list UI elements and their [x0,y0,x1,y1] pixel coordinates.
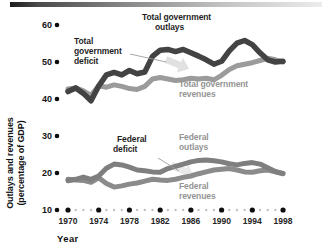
y-tick-label: 50 [34,57,52,67]
annotation-line: Federal [113,134,147,144]
annotation-line: Federal [179,132,209,142]
x-tick-dot-major [219,207,224,212]
annotation-line: government [74,46,122,56]
annotation-line: revenues [179,89,248,99]
x-tick-label: 1982 [147,216,173,226]
x-tick-dot-minor [243,209,245,211]
x-tick-dot-minor [205,209,207,211]
x-tick-dot-major [96,207,101,212]
annotation-federal-outlays: Federal outlays [179,132,209,152]
x-tick-dot-minor [136,209,138,211]
x-tick-dot-minor [151,209,153,211]
y-axis-title-line2: (percentage of GDP) [16,93,27,233]
y-axis-title: Outlays and revenues (percentage of GDP) [5,93,27,233]
annotation-line: deficit [113,144,147,154]
x-tick-dot-minor [259,209,261,211]
y-tick-label: 30 [34,131,52,141]
x-tick-dot-minor [197,209,199,211]
x-tick-label: 1978 [116,216,142,226]
x-tick-dot-minor [105,209,107,211]
annotation-line: outlays [142,22,211,32]
x-tick-dot-minor [113,209,115,211]
annotation-line: Total government [179,79,248,89]
x-tick-dot-major [250,207,255,212]
y-tick-dot [55,23,60,28]
y-tick-label: 10 [34,205,52,215]
x-tick-label: 1998 [270,216,296,226]
x-tick-dot-minor [82,209,84,211]
y-tick-dot [55,97,60,102]
x-tick-dot-major [280,207,285,212]
x-tick-dot-minor [90,209,92,211]
annotation-total-government-outlays: Total government outlays [142,12,211,32]
annotation-line: outlays [179,142,209,152]
x-tick-dot-minor [74,209,76,211]
annotation-line: Total [74,36,122,46]
x-tick-label: 1970 [55,216,81,226]
y-tick-dot [55,208,60,213]
y-tick-dot [55,171,60,176]
x-tick-dot-minor [213,209,215,211]
x-tick-dot-minor [144,209,146,211]
figure-government-budget-chart: Outlays and revenues (percentage of GDP)… [0,0,322,252]
x-tick-label: 1994 [239,216,265,226]
x-tick-dot-minor [121,209,123,211]
x-tick-dot-minor [182,209,184,211]
x-tick-dot-major [127,207,132,212]
x-tick-dot-minor [174,209,176,211]
x-tick-label: 1974 [86,216,112,226]
annotation-line: Total government [142,12,211,22]
y-tick-label: 60 [34,20,52,30]
x-tick-dot-major [65,207,70,212]
total-deficit-gap-arrow-icon [163,52,192,76]
x-tick-label: 1990 [209,216,235,226]
x-tick-dot-minor [236,209,238,211]
x-tick-dot-major [188,207,193,212]
x-tick-dot-minor [228,209,230,211]
annotation-total-government-revenues: Total government revenues [179,79,248,99]
x-tick-dot-minor [167,209,169,211]
annotation-total-government-deficit: Total government deficit [74,36,122,66]
annotation-federal-deficit: Federal deficit [113,134,147,154]
y-tick-label: 40 [34,94,52,104]
y-tick-dot [55,60,60,65]
annotation-line: Federal [179,181,216,191]
x-tick-label: 1986 [178,216,204,226]
y-tick-label: 20 [34,168,52,178]
annotation-line: deficit [74,56,122,66]
x-tick-dot-minor [274,209,276,211]
x-tick-dot-minor [266,209,268,211]
annotation-line: revenues [179,191,216,201]
y-axis-title-line1: Outlays and revenues [5,93,16,233]
y-tick-dot [55,134,60,139]
annotation-federal-revenues: Federal revenues [179,181,216,201]
x-tick-dot-major [158,207,163,212]
x-axis-title: Year [57,233,79,244]
